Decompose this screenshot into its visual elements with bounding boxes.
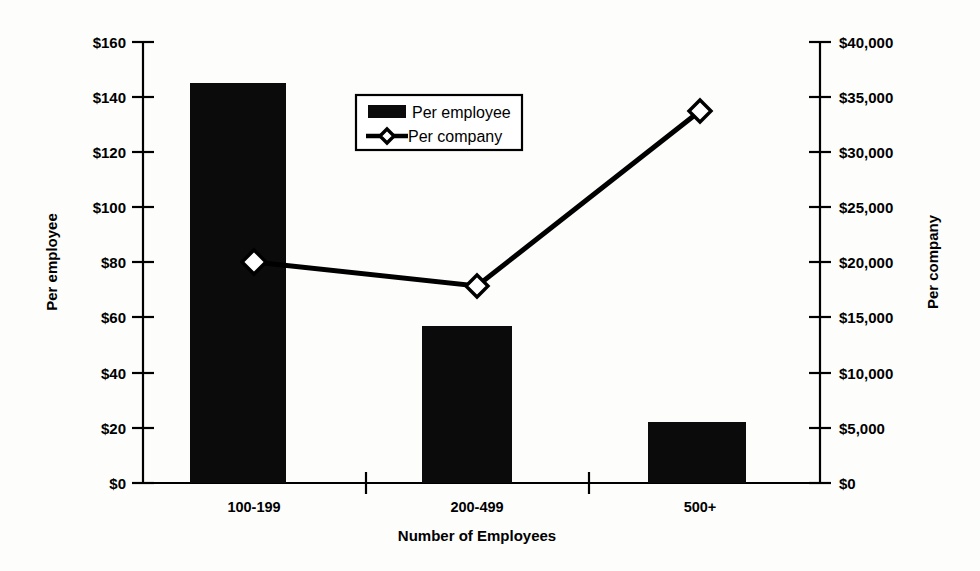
legend-label-per-employee: Per employee: [412, 104, 511, 121]
right-tick-label-5000: $5,000: [839, 420, 885, 437]
left-axis-title: Per employee: [43, 213, 60, 311]
right-tick-label-10000: $10,000: [839, 365, 893, 382]
right-tick-label-0: $0: [839, 475, 856, 492]
left-tick-label-100: $100: [93, 199, 126, 216]
right-tick-label-25000: $25,000: [839, 199, 893, 216]
left-tick-label-60: $60: [101, 309, 126, 326]
legend-swatch-per-employee: [368, 105, 406, 118]
chart-legend: Per employee Per company: [356, 95, 522, 150]
right-tick-label-30000: $30,000: [839, 144, 893, 161]
x-category-label-0: 100-199: [227, 499, 280, 515]
left-tick-label-20: $20: [101, 420, 126, 437]
left-tick-label-120: $120: [93, 144, 126, 161]
right-axis: $40,000 $35,000 $30,000 $25,000 $20,000 …: [809, 34, 941, 492]
left-tick-label-80: $80: [101, 254, 126, 271]
right-tick-label-40000: $40,000: [839, 34, 893, 51]
left-axis: $160 $140 $120 $100 $80 $60 $40 $20 $0 P…: [43, 34, 154, 492]
left-tick-label-0: $0: [109, 475, 126, 492]
x-category-label-1: 200-499: [450, 499, 503, 515]
chart-figure: $160 $140 $120 $100 $80 $60 $40 $20 $0 P…: [0, 0, 980, 571]
right-tick-label-20000: $20,000: [839, 254, 893, 271]
x-category-label-2: 500+: [684, 499, 717, 515]
right-axis-title: Per company: [924, 214, 941, 309]
left-tick-label-40: $40: [101, 365, 126, 382]
x-axis-title: Number of Employees: [398, 527, 556, 544]
bar-500-plus: [648, 422, 746, 483]
legend-label-per-company: Per company: [408, 128, 502, 145]
left-tick-label-140: $140: [93, 89, 126, 106]
left-tick-label-160: $160: [93, 34, 126, 51]
bar-200-499: [422, 326, 512, 483]
bar-100-199: [190, 83, 286, 483]
right-tick-label-15000: $15,000: [839, 309, 893, 326]
combo-bar-line-chart: $160 $140 $120 $100 $80 $60 $40 $20 $0 P…: [0, 0, 980, 571]
right-tick-label-35000: $35,000: [839, 89, 893, 106]
